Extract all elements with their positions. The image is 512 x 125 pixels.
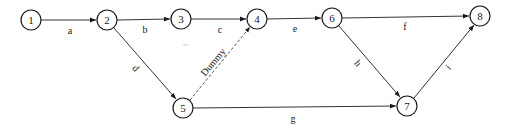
edge-d xyxy=(114,28,176,99)
edge-labels: a b c d Dummy e f g h i xyxy=(68,21,453,124)
edge-label-dummy: Dummy xyxy=(198,46,227,78)
svg-text:5: 5 xyxy=(180,102,186,114)
edge-e xyxy=(267,18,321,19)
edge-label-g: g xyxy=(291,113,296,124)
svg-text:3: 3 xyxy=(178,13,184,25)
svg-text:7: 7 xyxy=(404,100,410,112)
edge-label-i: i xyxy=(443,62,453,71)
edge-label-b: b xyxy=(143,24,148,35)
edge-label-h: h xyxy=(352,57,364,68)
edge-label-f: f xyxy=(403,21,407,32)
svg-text:8: 8 xyxy=(477,10,483,22)
node-4: 4 xyxy=(247,9,267,29)
svg-text:2: 2 xyxy=(104,14,110,26)
edge-f xyxy=(342,16,469,18)
edge-label-d: d xyxy=(130,62,142,73)
edge-label-a: a xyxy=(68,25,73,36)
edge-dummy xyxy=(190,27,250,100)
edge-i xyxy=(414,25,474,98)
node-8: 8 xyxy=(470,6,490,26)
node-5: 5 xyxy=(173,98,193,118)
node-2: 2 xyxy=(97,10,117,30)
svg-text:1: 1 xyxy=(28,14,34,26)
network-diagram: a b c d Dummy e f g h i 1 2 3 4 5 xyxy=(0,0,512,125)
node-1: 1 xyxy=(21,10,41,30)
edge-h xyxy=(339,26,400,97)
svg-text:6: 6 xyxy=(329,12,335,24)
node-7: 7 xyxy=(397,96,417,116)
edge-b xyxy=(117,19,170,20)
node-3: 3 xyxy=(171,9,191,29)
svg-text:4: 4 xyxy=(254,13,260,25)
edge-label-c: c xyxy=(218,24,223,35)
edge-label-e: e xyxy=(293,23,298,34)
edge-g xyxy=(193,106,396,108)
nodes: 1 2 3 4 5 6 7 8 xyxy=(21,6,490,118)
node-6: 6 xyxy=(322,8,342,28)
